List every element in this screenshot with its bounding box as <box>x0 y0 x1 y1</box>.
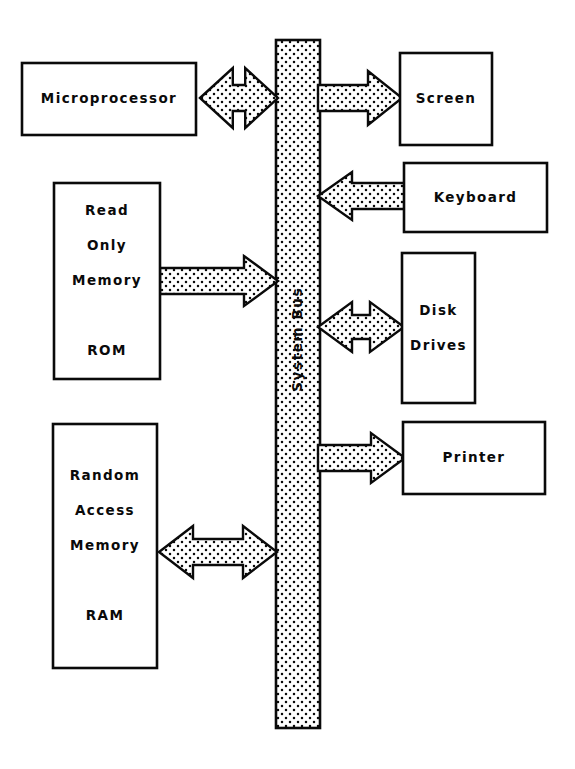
bus-disk-drives-arrow-shape <box>318 302 404 352</box>
box-ram: RandomAccessMemoryRAM <box>53 424 157 668</box>
box-microprocessor: Microprocessor <box>22 63 196 135</box>
bus-printer-arrow-shape <box>318 433 405 483</box>
ram-bus-arrow-shape <box>159 526 277 578</box>
box-ram-label-line-0: Random <box>70 467 141 483</box>
system-bus-group: System Bus <box>276 40 320 728</box>
microprocessor-bus-arrow <box>200 68 278 128</box>
diagram-canvas: System Bus MicroprocessorReadOnlyMemoryR… <box>0 0 575 769</box>
box-rom-label-line-0: Read <box>85 202 129 218</box>
box-keyboard: Keyboard <box>404 163 547 232</box>
box-microprocessor-label-line-0: Microprocessor <box>41 90 177 106</box>
bus-disk-drives-arrow <box>318 302 404 352</box>
system-bus: System Bus <box>276 40 320 728</box>
box-keyboard-label-line-0: Keyboard <box>434 189 518 205</box>
box-screen: Screen <box>400 53 492 145</box>
box-rom-label-line-1: Only <box>87 237 127 253</box>
box-rom: ReadOnlyMemoryROM <box>54 183 160 379</box>
bus-screen-arrow <box>318 71 402 125</box>
keyboard-bus-arrow-shape <box>318 172 406 220</box>
system-bus-label: System Bus <box>289 287 305 392</box>
bus-screen-arrow-shape <box>318 71 402 125</box>
box-disk-drives-label-line-1: Drives <box>410 337 467 353</box>
box-disk-drives: DiskDrives <box>402 253 475 403</box>
keyboard-bus-arrow <box>318 172 406 220</box>
rom-bus-arrow <box>160 256 278 306</box>
box-ram-label-line-4: RAM <box>86 607 124 623</box>
box-rom-label-line-4: ROM <box>87 342 127 358</box>
box-disk-drives-label-line-0: Disk <box>419 302 457 318</box>
box-screen-label-line-0: Screen <box>416 90 477 106</box>
box-rom-label-line-2: Memory <box>72 272 142 288</box>
box-ram-label-line-1: Access <box>75 502 135 518</box>
computer-system-diagram: System Bus MicroprocessorReadOnlyMemoryR… <box>0 0 575 769</box>
box-printer-label-line-0: Printer <box>443 449 506 465</box>
box-disk-drives-outline <box>402 253 475 403</box>
box-ram-label-line-2: Memory <box>70 537 140 553</box>
rom-bus-arrow-shape <box>160 256 278 306</box>
bus-printer-arrow <box>318 433 405 483</box>
box-printer: Printer <box>403 422 545 494</box>
microprocessor-bus-arrow-shape <box>200 68 278 128</box>
ram-bus-arrow <box>159 526 277 578</box>
